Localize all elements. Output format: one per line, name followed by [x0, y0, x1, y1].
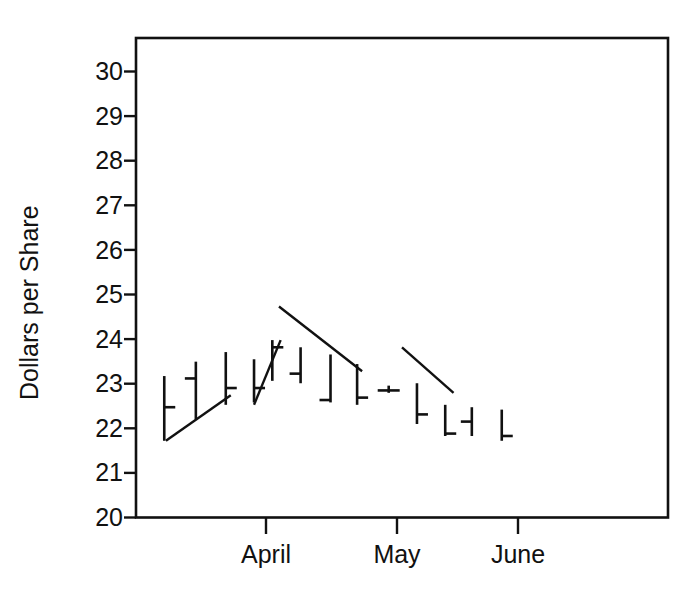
hlc-bar [502, 410, 513, 441]
hlc-bar [378, 386, 400, 393]
y-tick-label: 27 [95, 191, 123, 219]
stock-price-chart: Dollars per Share 30 29 28 27 26 25 24 2… [0, 0, 698, 611]
trendlines-layer [166, 307, 454, 441]
y-tick-label: 22 [95, 414, 123, 442]
y-tick-label: 20 [95, 503, 123, 531]
y-tick-label: 24 [95, 325, 123, 353]
y-axis-title: Dollars per Share [15, 205, 43, 400]
y-tick-label: 28 [95, 146, 123, 174]
plot-frame [136, 38, 668, 518]
x-axis-ticks [266, 518, 518, 534]
hlc-bars-layer [164, 340, 512, 441]
x-tick-label-may: May [373, 540, 421, 568]
y-tick-label: 25 [95, 280, 123, 308]
y-tick-label: 23 [95, 369, 123, 397]
hlc-bar [417, 383, 428, 424]
hlc-bar [320, 354, 331, 402]
chart-svg: Dollars per Share 30 29 28 27 26 25 24 2… [0, 0, 698, 611]
trendline-uptrend-1 [166, 395, 231, 441]
hlc-bar [164, 376, 175, 441]
x-tick-label-april: April [241, 540, 291, 568]
hlc-bar [461, 407, 472, 436]
hlc-bar [445, 405, 456, 436]
y-tick-label: 21 [95, 458, 123, 486]
x-tick-label-june: June [491, 540, 545, 568]
hlc-bar [185, 362, 196, 420]
trendline-downtrend-2 [402, 347, 454, 393]
trendline-uptrend-2 [254, 340, 281, 405]
trendline-downtrend-1 [279, 307, 362, 372]
y-tick-label: 29 [95, 102, 123, 130]
y-tick-label: 30 [95, 57, 123, 85]
y-tick-label: 26 [95, 236, 123, 264]
hlc-bar [290, 347, 301, 383]
y-axis-ticks [124, 72, 136, 518]
